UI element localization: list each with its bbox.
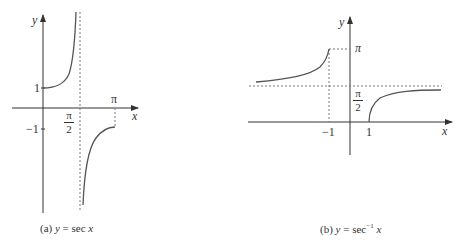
caption-eq: = sec	[340, 223, 366, 235]
tick-label-neg1: −1	[26, 123, 39, 135]
caption-eq: = sec	[60, 222, 89, 234]
caption-var-x: x	[374, 223, 382, 235]
y-axis-label: y	[32, 14, 37, 26]
caption-var-x: x	[88, 222, 93, 234]
x-axis-label: x	[132, 110, 137, 122]
x-axis-label: x	[442, 125, 447, 137]
frac-num: π	[355, 88, 361, 99]
tick-label-pi: π	[355, 42, 361, 54]
graph-sec	[12, 12, 138, 213]
caption-prefix: (b)	[320, 223, 336, 235]
tick-label-pi-half: π 2	[64, 110, 74, 135]
sec-upper-branch	[43, 12, 76, 88]
graph-arcsec	[248, 17, 452, 155]
tick-label-pi: π	[111, 93, 117, 105]
arcsec-left-branch	[256, 49, 329, 82]
tick-label-pi-half: π 2	[353, 88, 363, 113]
sec-lower-branch	[83, 127, 115, 205]
arcsec-right-branch	[369, 90, 441, 122]
caption-a: (a) y = sec x	[40, 222, 93, 234]
caption-prefix: (a)	[40, 222, 55, 234]
tick-label-1: 1	[34, 82, 40, 94]
y-axis-label: y	[339, 16, 344, 28]
caption-b: (b) y = sec−1 x	[320, 222, 381, 235]
tick-label-neg1: −1	[322, 126, 335, 138]
tick-label-1: 1	[366, 126, 372, 138]
frac-den: 2	[66, 124, 72, 135]
caption-superscript: −1	[366, 222, 373, 230]
frac-num: π	[66, 110, 72, 121]
frac-den: 2	[355, 102, 361, 113]
